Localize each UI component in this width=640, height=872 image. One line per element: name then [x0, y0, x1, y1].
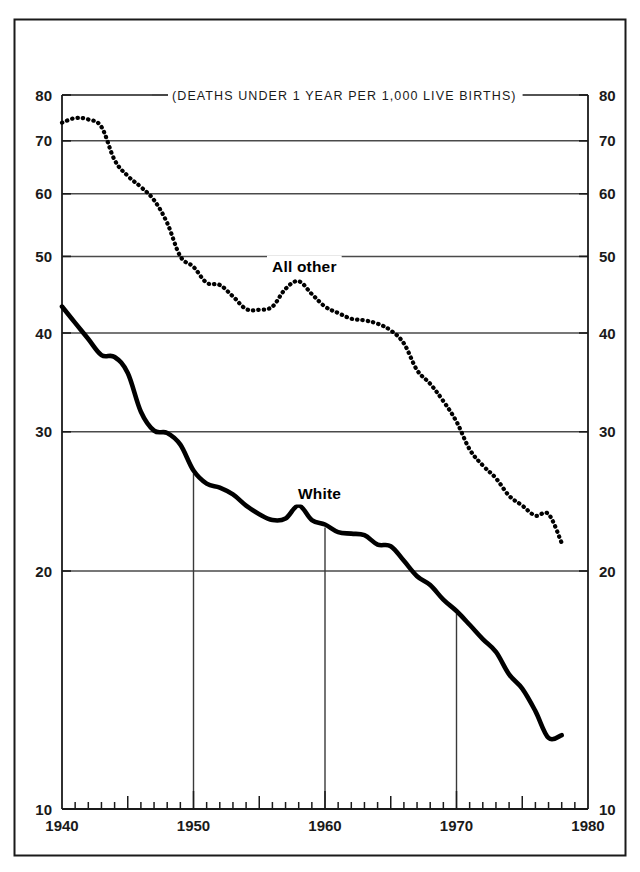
y-label-right-70: 70	[599, 132, 616, 149]
y-label-left-20: 20	[35, 563, 52, 580]
x-label-1950: 1950	[177, 817, 210, 834]
y-label-right-10: 10	[599, 801, 616, 818]
y-label-right-20: 20	[599, 563, 616, 580]
y-label-right-80: 80	[599, 87, 616, 104]
unit-note-text: (DEATHS UNDER 1 YEAR PER 1,000 LIVE BIRT…	[172, 89, 517, 103]
infant-mortality-line-chart: 1020304050607080 1020304050607080 194019…	[0, 0, 640, 872]
y-label-right-40: 40	[599, 325, 616, 342]
y-label-right-60: 60	[599, 185, 616, 202]
y-label-left-60: 60	[35, 185, 52, 202]
x-label-1960: 1960	[308, 817, 341, 834]
y-label-left-80: 80	[35, 87, 52, 104]
y-label-right-30: 30	[599, 423, 616, 440]
y-label-left-70: 70	[35, 132, 52, 149]
canvas-background	[0, 0, 640, 872]
series-label-all-other: All other	[272, 258, 337, 275]
series-label-white: White	[298, 485, 341, 502]
x-label-1940: 1940	[45, 817, 78, 834]
y-label-left-30: 30	[35, 423, 52, 440]
x-label-1980: 1980	[571, 817, 604, 834]
y-label-left-10: 10	[35, 801, 52, 818]
y-label-left-40: 40	[35, 325, 52, 342]
x-label-1970: 1970	[440, 817, 473, 834]
y-label-right-50: 50	[599, 248, 616, 265]
y-label-left-50: 50	[35, 248, 52, 265]
figure-root: 1020304050607080 1020304050607080 194019…	[0, 0, 640, 872]
